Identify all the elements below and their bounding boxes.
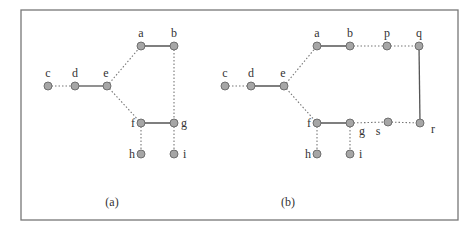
- node-label-e: e: [103, 66, 108, 80]
- node-r: [416, 119, 424, 127]
- node-label-c: c: [45, 66, 50, 80]
- edge-e-f: [107, 86, 141, 123]
- node-label-q: q: [416, 26, 422, 40]
- node-label-b: b: [171, 26, 177, 40]
- node-q: [415, 42, 423, 50]
- node-b: [170, 42, 178, 50]
- edges: [225, 46, 420, 154]
- node-label-g: g: [359, 124, 365, 138]
- caption-a: (a): [105, 195, 118, 209]
- node-label-f: f: [307, 116, 311, 130]
- node-g: [346, 119, 354, 127]
- figure-frame: [21, 10, 458, 220]
- node-c: [221, 82, 229, 90]
- node-h: [313, 150, 321, 158]
- node-label-h: h: [129, 147, 135, 161]
- node-b: [346, 42, 354, 50]
- node-s: [384, 118, 392, 126]
- graph-diagram: cdeabfghi (a) cdeabpqfgsrhi (b): [0, 0, 476, 234]
- edge-e-f: [284, 86, 317, 123]
- edges: [48, 46, 174, 154]
- node-i: [346, 150, 354, 158]
- node-label-d: d: [248, 66, 254, 80]
- node-label-b: b: [347, 26, 353, 40]
- node-label-e: e: [280, 66, 285, 80]
- edge-g-s: [350, 122, 388, 123]
- node-e: [103, 82, 111, 90]
- caption-b: (b): [281, 195, 295, 209]
- node-label-r: r: [431, 122, 435, 136]
- node-a: [137, 42, 145, 50]
- node-f: [137, 119, 145, 127]
- node-a: [313, 42, 321, 50]
- node-p: [383, 42, 391, 50]
- node-e: [280, 82, 288, 90]
- node-g: [170, 119, 178, 127]
- node-label-s: s: [376, 124, 381, 138]
- subfigure-a: cdeabfghi (a): [44, 26, 187, 209]
- node-c: [44, 82, 52, 90]
- node-label-a: a: [138, 26, 144, 40]
- node-h: [137, 150, 145, 158]
- edge-e-a: [107, 46, 141, 86]
- node-label-g: g: [181, 116, 187, 130]
- node-label-p: p: [384, 26, 390, 40]
- node-label-d: d: [72, 66, 78, 80]
- node-label-i: i: [359, 147, 363, 161]
- node-f: [313, 119, 321, 127]
- edge-e-a: [284, 46, 317, 86]
- node-label-f: f: [131, 116, 135, 130]
- node-label-a: a: [314, 26, 320, 40]
- node-label-i: i: [183, 147, 187, 161]
- node-label-h: h: [305, 147, 311, 161]
- node-d: [247, 82, 255, 90]
- subfigure-b: cdeabpqfgsrhi (b): [221, 26, 435, 209]
- node-i: [170, 150, 178, 158]
- edge-s-r: [388, 122, 420, 123]
- node-label-c: c: [222, 66, 227, 80]
- edge-q-r: [419, 46, 420, 123]
- node-d: [71, 82, 79, 90]
